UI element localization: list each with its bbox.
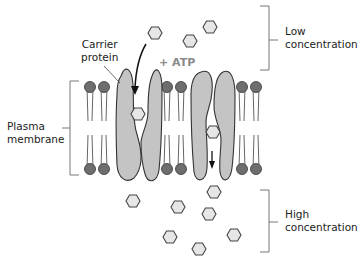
low-concentration-bracket [260, 6, 278, 70]
molecules-high-concentration [126, 186, 241, 255]
phospholipid-group-left [85, 82, 110, 175]
membrane-bracket [62, 81, 79, 175]
curved-arrow-in [131, 44, 146, 95]
carrier-protein-open-top [116, 69, 162, 181]
high-concentration-bracket [260, 190, 278, 252]
high-concentration-label: High concentration [285, 208, 358, 234]
atp-label: + ATP [159, 56, 195, 69]
plasma-membrane-label: Plasma membrane [7, 120, 64, 146]
low-concentration-label: Low concentration [285, 25, 358, 51]
carrier-protein-label: Carrier protein [81, 38, 118, 64]
phospholipid-group-right [237, 82, 262, 175]
molecules-low-concentration [148, 21, 217, 47]
phospholipid-group-middle [162, 82, 187, 175]
molecule-in-protein-2 [206, 126, 220, 138]
molecule-in-protein-1 [131, 108, 145, 120]
arrow-out [209, 151, 215, 169]
carrier-protein-pointer [104, 66, 120, 83]
